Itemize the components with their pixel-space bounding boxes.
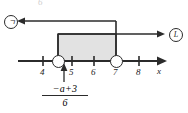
number-line-diagram: 6 ㄱ L 4 5 6 7 8 x − [0,0,188,113]
endpoint-open-circle-right [110,55,123,68]
fraction-numerator: −a+3 [34,83,96,94]
x-axis-label: x [157,67,161,76]
expression-fraction: −a+3 6 [34,83,96,108]
left-callout-badge: ㄱ [4,15,18,29]
left-arrow-head [17,18,25,25]
tick-label-5: 5 [69,68,74,77]
x-axis-arrow-head [157,57,167,66]
tick-label-6: 6 [91,68,96,77]
shaded-region [58,34,116,61]
endpoint-open-circle-left [52,55,65,68]
tick-label-7: 7 [113,68,118,77]
right-arrow-head [157,31,165,38]
right-callout-badge: L [169,28,183,42]
fraction-bar [42,95,88,96]
tick-label-8: 8 [136,68,141,77]
fraction-denominator: 6 [34,97,96,108]
tick-label-4: 4 [40,68,45,77]
